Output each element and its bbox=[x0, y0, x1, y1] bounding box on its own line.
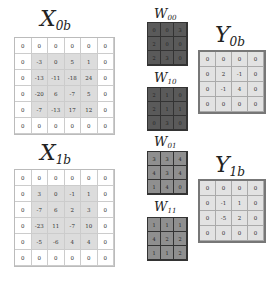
x1b-cell: 4 bbox=[81, 234, 98, 250]
y1b-cell: 0 bbox=[232, 181, 248, 196]
x0b-cell: -18 bbox=[65, 70, 82, 86]
x0b-cell: 0 bbox=[48, 118, 65, 134]
x1b-cell: 0 bbox=[98, 186, 115, 202]
w01-cell: 1 bbox=[148, 180, 161, 194]
w10-cell: 2 bbox=[148, 88, 161, 102]
x1b-cell: 0 bbox=[65, 250, 82, 266]
x0b-cell: 0 bbox=[32, 118, 49, 134]
w10-cell: 0 bbox=[174, 88, 187, 102]
w00-label: W00 bbox=[154, 6, 176, 22]
y0b-cell: 0 bbox=[200, 82, 216, 97]
y1b-cell: 0 bbox=[248, 226, 264, 241]
x1b-cell: 0 bbox=[15, 250, 32, 266]
x1b-cell: 0 bbox=[98, 202, 115, 218]
x0b-matrix: 0000000-305100-13-11-182400-206-7500-7-1… bbox=[14, 37, 115, 135]
w11-label: W11 bbox=[154, 199, 176, 215]
w00-cell: 0 bbox=[161, 23, 174, 37]
w10-matrix: 210211030 bbox=[147, 87, 188, 131]
y0b-cell: -1 bbox=[216, 82, 232, 97]
x1b-cell: 0 bbox=[48, 250, 65, 266]
x1b-cell: -1 bbox=[65, 186, 82, 202]
w00-cell: 0 bbox=[148, 23, 161, 37]
x1b-cell: 0 bbox=[65, 170, 82, 186]
x1b-cell: -7 bbox=[32, 202, 49, 218]
w10-label: W10 bbox=[154, 70, 176, 86]
y0b-cell: 0 bbox=[248, 52, 264, 67]
x0b-cell: -3 bbox=[32, 54, 49, 70]
x1b-cell: 0 bbox=[98, 218, 115, 234]
w01-cell: 3 bbox=[161, 152, 174, 166]
x0b-cell: 0 bbox=[65, 38, 82, 54]
x1b-cell: 0 bbox=[15, 218, 32, 234]
x0b-cell: 0 bbox=[15, 118, 32, 134]
y1b-cell: 1 bbox=[232, 196, 248, 211]
x0b-cell: 0 bbox=[81, 118, 98, 134]
y0b-cell: 0 bbox=[216, 97, 232, 112]
x0b-cell: 0 bbox=[48, 38, 65, 54]
x0b-cell: 0 bbox=[15, 54, 32, 70]
w00-matrix: 003200230 bbox=[147, 22, 188, 66]
x0b-cell: 24 bbox=[81, 70, 98, 86]
y0b-cell: 0 bbox=[248, 82, 264, 97]
w10-cell: 1 bbox=[161, 88, 174, 102]
w00-cell: 3 bbox=[174, 23, 187, 37]
y0b-cell: 0 bbox=[248, 97, 264, 112]
x1b-cell: 0 bbox=[48, 186, 65, 202]
x0b-cell: 5 bbox=[81, 86, 98, 102]
x1b-cell: 0 bbox=[15, 202, 32, 218]
y0b-cell: -1 bbox=[232, 67, 248, 82]
w11-label-sub: 11 bbox=[167, 206, 176, 215]
x0b-cell: 0 bbox=[15, 102, 32, 118]
x1b-cell: 2 bbox=[65, 202, 82, 218]
x1b-cell: 0 bbox=[15, 234, 32, 250]
w11-cell: 1 bbox=[161, 218, 174, 232]
x1b-cell: 0 bbox=[15, 186, 32, 202]
y1b-cell: 0 bbox=[216, 181, 232, 196]
y0b-matrix: 000002-100-1400000 bbox=[198, 50, 266, 114]
x1b-cell: 0 bbox=[32, 250, 49, 266]
y1b-cell: 0 bbox=[248, 196, 264, 211]
y1b-cell: 0 bbox=[248, 181, 264, 196]
x1b-cell: -7 bbox=[65, 218, 82, 234]
y0b-cell: 0 bbox=[232, 52, 248, 67]
w10-cell: 0 bbox=[148, 116, 161, 130]
y1b-label-sub: 1b bbox=[230, 165, 245, 179]
y0b-cell: 2 bbox=[216, 67, 232, 82]
x0b-cell: 0 bbox=[98, 86, 115, 102]
w01-cell: 0 bbox=[174, 180, 187, 194]
y1b-cell: 0 bbox=[200, 196, 216, 211]
w01-cell: 4 bbox=[148, 166, 161, 180]
x0b-cell: 0 bbox=[32, 38, 49, 54]
w11-cell: 1 bbox=[174, 218, 187, 232]
y0b-cell: 0 bbox=[200, 52, 216, 67]
w11-cell: 2 bbox=[174, 232, 187, 246]
x1b-cell: -23 bbox=[32, 218, 49, 234]
w00-cell: 3 bbox=[161, 51, 174, 65]
w11-cell: 2 bbox=[174, 246, 187, 260]
x1b-cell: 0 bbox=[48, 170, 65, 186]
x1b-cell: 0 bbox=[15, 170, 32, 186]
x0b-cell: 0 bbox=[98, 118, 115, 134]
y0b-cell: 4 bbox=[232, 82, 248, 97]
x0b-cell: 0 bbox=[81, 38, 98, 54]
x0b-cell: -11 bbox=[48, 70, 65, 86]
x1b-cell: 6 bbox=[48, 202, 65, 218]
w00-label-sub: 00 bbox=[167, 13, 176, 22]
x0b-cell: 0 bbox=[98, 54, 115, 70]
w11-matrix: 111422112 bbox=[147, 217, 188, 261]
y0b-cell: 0 bbox=[216, 52, 232, 67]
w01-cell: 4 bbox=[174, 166, 187, 180]
w01-cell: 3 bbox=[148, 152, 161, 166]
x0b-cell: 0 bbox=[15, 38, 32, 54]
w01-cell: 4 bbox=[174, 152, 187, 166]
y1b-matrix: 00000-1100-5200000 bbox=[198, 179, 266, 243]
x0b-cell: 0 bbox=[15, 70, 32, 86]
x1b-matrix: 000000030-1100-762300-2311-71000-5-64400… bbox=[14, 169, 115, 267]
w01-label-base: W bbox=[154, 134, 167, 149]
y1b-cell: -5 bbox=[216, 211, 232, 226]
x0b-cell: 0 bbox=[65, 118, 82, 134]
w00-cell: 0 bbox=[161, 37, 174, 51]
x1b-cell: 1 bbox=[81, 186, 98, 202]
y0b-label-sub: 0b bbox=[230, 35, 245, 49]
y0b-cell: 0 bbox=[248, 67, 264, 82]
